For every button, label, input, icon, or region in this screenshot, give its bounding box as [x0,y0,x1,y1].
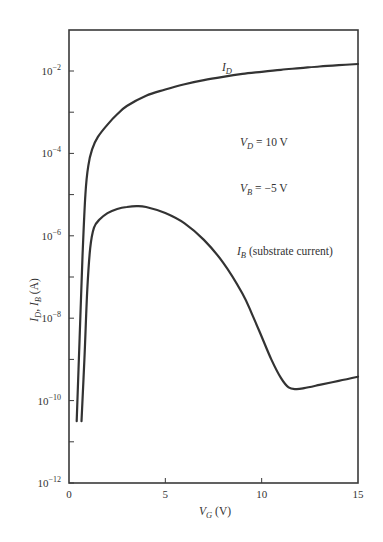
x-axis-title: VG (V) [199,505,231,520]
annotations: VD = 10 VVB = −5 VIDIB (substrate curren… [221,61,333,260]
substrate-current-label: IB (substrate current) [236,245,333,260]
drain-current-label: ID [221,61,233,76]
bulk-voltage-annotation: VB = −5 V [240,182,288,197]
y-tick-label: 10−4 [41,145,61,159]
drain-current-curve [77,64,358,421]
x-axis-ticks: 051015 [66,478,364,500]
y-tick-label: 10−12 [37,475,61,489]
substrate-current-curve [82,206,359,421]
x-tick-label: 15 [353,488,365,500]
y-tick-label: 10−8 [41,310,61,324]
y-axis-title-group: ID, IB (A) [28,278,43,323]
drain-voltage-annotation: VD = 10 V [240,136,289,151]
curves [77,64,358,421]
x-tick-label: 5 [163,488,169,500]
y-tick-label: 10−10 [37,393,61,407]
x-tick-label: 0 [66,488,72,500]
y-tick-label: 10−6 [41,228,61,242]
y-tick-label: 10−2 [41,63,61,77]
x-tick-label: 10 [256,488,268,500]
chart: 10−210−410−610−810−1010−12 051015 VD = 1… [0,0,383,542]
y-axis-title: ID, IB (A) [28,278,43,323]
